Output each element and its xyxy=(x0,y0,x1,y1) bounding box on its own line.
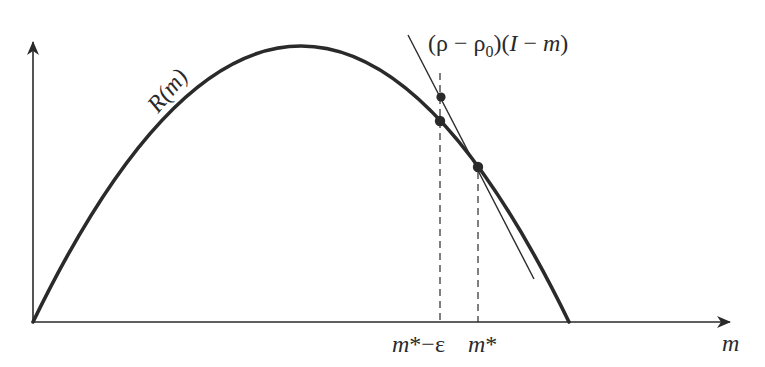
intersection-point-marker xyxy=(473,162,483,172)
line-label-part1: (ρ − ρ xyxy=(428,30,485,56)
curve-point-marker xyxy=(435,116,445,126)
tick-m-star-eps-rest: *−ε xyxy=(409,331,445,357)
tick-label-m-star-minus-epsilon: m*−ε xyxy=(392,331,445,357)
line-label-part2: )( xyxy=(493,30,509,56)
line-label-minus: − xyxy=(517,30,543,56)
guide-lines xyxy=(440,73,478,322)
x-axis-label: m xyxy=(722,330,739,356)
axes xyxy=(33,42,730,322)
revenue-curve xyxy=(33,46,569,322)
tick-m-star-eps-m: m xyxy=(392,331,409,357)
tick-m-star-m: m xyxy=(468,331,485,357)
diagram-canvas: R(m) (ρ − ρ0)(I − m) m*−ε m* m xyxy=(0,0,765,367)
line-label-close: ) xyxy=(560,30,568,56)
tick-m-star-rest: * xyxy=(485,331,497,357)
line-point-marker xyxy=(436,92,445,101)
x-axis-label-text: m xyxy=(722,330,739,356)
line-label: (ρ − ρ0)(I − m) xyxy=(428,30,568,60)
curve-label: R(m) xyxy=(141,64,192,118)
line-label-subscript: 0 xyxy=(485,43,493,60)
linear-function-line xyxy=(408,35,534,279)
curve-label-text: R(m) xyxy=(141,64,192,118)
line-label-m: m xyxy=(543,30,560,56)
tick-label-m-star: m* xyxy=(468,331,497,357)
